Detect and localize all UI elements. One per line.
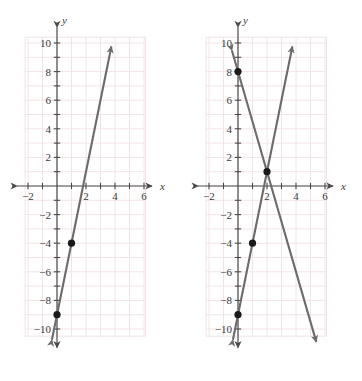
- data-point: [234, 68, 241, 75]
- x-tick-label: −2: [203, 190, 215, 202]
- y-tick-label: −10: [215, 323, 233, 335]
- y-tick-label: −10: [34, 323, 52, 335]
- data-point: [249, 240, 256, 247]
- grid-border: [206, 37, 326, 336]
- data-lines: [52, 47, 111, 340]
- grid-lines: [25, 37, 145, 336]
- chart-panel-right: −2246−10−8−6−4−2246810xy: [181, 0, 362, 381]
- axes: [198, 27, 333, 347]
- grid-border: [25, 37, 145, 336]
- x-tick-label: −2: [22, 190, 34, 202]
- y-tick-label: 4: [46, 123, 52, 135]
- chart-svg: −2246−10−8−6−4−2246810xy: [0, 0, 181, 381]
- x-axis-label: x: [159, 180, 165, 192]
- y-tick-label: −2: [39, 209, 51, 221]
- data-point: [53, 311, 60, 318]
- y-tick-label: −2: [220, 209, 232, 221]
- y-tick-label: −8: [220, 294, 232, 306]
- chart-panel-left: −2246−10−8−6−4−2246810xy: [0, 0, 181, 381]
- x-tick-label: 6: [141, 190, 147, 202]
- data-point: [68, 240, 75, 247]
- axes: [17, 27, 152, 347]
- x-tick-label: 4: [293, 190, 299, 202]
- data-line: [52, 47, 111, 340]
- data-line: [233, 47, 292, 340]
- y-axis-label: y: [61, 14, 67, 26]
- y-tick-label: 6: [46, 94, 52, 106]
- data-lines: [232, 47, 316, 342]
- x-axis-label: x: [340, 180, 346, 192]
- y-tick-label: 8: [46, 66, 52, 78]
- y-tick-label: 2: [46, 151, 52, 163]
- y-axis-label: y: [242, 14, 248, 26]
- y-tick-label: 4: [227, 123, 233, 135]
- grid-lines: [206, 37, 326, 336]
- y-tick-label: 6: [227, 94, 233, 106]
- chart-svg: −2246−10−8−6−4−2246810xy: [181, 0, 362, 381]
- y-tick-label: −4: [39, 237, 51, 249]
- y-tick-label: −4: [220, 237, 232, 249]
- y-tick-label: 10: [40, 37, 52, 49]
- x-tick-label: 4: [112, 190, 118, 202]
- figure-container: −2246−10−8−6−4−2246810xy −2246−10−8−6−4−…: [0, 0, 362, 381]
- data-point: [234, 311, 241, 318]
- y-tick-label: 10: [221, 37, 233, 49]
- data-line: [232, 51, 316, 342]
- y-tick-label: −8: [39, 294, 51, 306]
- y-tick-label: −6: [39, 266, 51, 278]
- y-tick-label: 8: [227, 66, 233, 78]
- x-tick-label: 2: [83, 190, 89, 202]
- x-tick-label: 2: [264, 190, 270, 202]
- y-tick-label: 2: [227, 151, 233, 163]
- data-point: [263, 168, 270, 175]
- x-tick-label: 6: [322, 190, 328, 202]
- y-tick-label: −6: [220, 266, 232, 278]
